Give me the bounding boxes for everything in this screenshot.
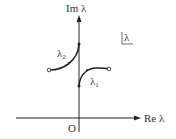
lambda-2-subscript: 2 [62,53,66,61]
end-open-circle-lambda-1 [107,67,111,71]
imaginary-axis-label: Im λ [66,3,86,14]
start-open-circle-lambda-2 [47,68,51,72]
origin-label: O [68,123,76,134]
plane-label: λ [124,32,129,43]
lambda-1-subscript: 1 [95,81,99,89]
real-axis-arrow-icon [134,116,141,121]
start-dot-lambda-1 [78,85,81,88]
end-dot-lambda-2 [78,43,81,46]
mid-dot-lambda-1 [86,69,88,71]
real-axis-label: Re λ [144,113,164,124]
imaginary-axis-arrow-icon [77,15,82,22]
lambda-1-label: λ1 [90,76,99,89]
lambda-2-label: λ2 [57,48,66,61]
mid-dot-lambda-2 [68,62,70,64]
